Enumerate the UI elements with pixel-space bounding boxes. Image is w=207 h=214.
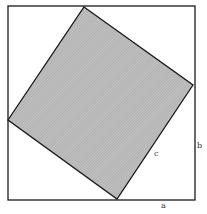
label-b: b — [197, 141, 202, 150]
label-c: c — [154, 149, 158, 158]
label-a: a — [161, 201, 166, 210]
diagram — [0, 0, 207, 214]
